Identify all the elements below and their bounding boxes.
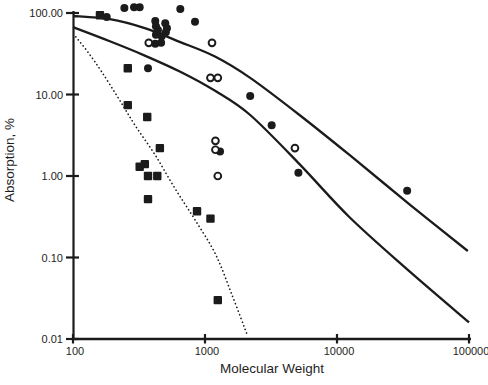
data-point-open-circle [207, 74, 214, 81]
data-point-filled-square [96, 11, 104, 19]
data-point-filled-circle [144, 64, 152, 72]
y-tick-label: 0.01 [42, 333, 63, 345]
data-point-filled-square [144, 195, 152, 203]
y-tick-label: 1.00 [42, 170, 63, 182]
x-tick-label: 10000 [324, 345, 355, 357]
y-tick-label: 10.00 [35, 89, 63, 101]
data-point-filled-square [156, 144, 164, 152]
data-point-filled-circle [176, 5, 184, 13]
data-point-filled-circle [403, 187, 411, 195]
data-point-filled-square [214, 296, 222, 304]
data-point-filled-circle [246, 92, 254, 100]
x-tick-label: 100000 [453, 345, 488, 357]
data-point-filled-square [206, 214, 214, 222]
data-point-open-circle [292, 145, 299, 152]
x-axis-title: Molecular Weight [220, 361, 324, 376]
dotted-curve [76, 37, 248, 336]
labels-layer: 100.0010.001.000.100.0110010001000010000… [29, 7, 488, 357]
data-point-filled-square [193, 207, 201, 215]
data-point-filled-square [141, 160, 149, 168]
data-point-filled-square [143, 113, 151, 121]
y-axis-title: Absorption, % [2, 118, 17, 202]
x-tick-label: 100 [66, 345, 84, 357]
data-point-filled-circle [191, 18, 199, 26]
data-point-filled-circle [157, 39, 165, 47]
chart-figure: 100.0010.001.000.100.0110010001000010000… [0, 0, 488, 385]
axes-layer [66, 11, 471, 344]
data-point-open-circle [145, 39, 152, 46]
data-point-open-circle [214, 74, 221, 81]
data-point-open-circle [214, 173, 221, 180]
data-point-open-circle [212, 137, 219, 144]
data-point-filled-circle [294, 169, 302, 177]
y-tick-label: 100.00 [29, 7, 63, 19]
data-point-filled-square [144, 172, 152, 180]
lower-solid-curve [73, 27, 469, 322]
data-point-open-circle [209, 39, 216, 46]
data-point-filled-circle [268, 121, 276, 129]
data-point-filled-circle [120, 4, 128, 12]
markers-layer [96, 3, 411, 304]
x-tick-label: 1000 [195, 345, 219, 357]
data-point-filled-square [124, 64, 132, 72]
curves-layer [73, 16, 469, 336]
data-point-filled-circle [136, 3, 144, 11]
data-point-filled-square [153, 172, 161, 180]
data-point-filled-square [124, 101, 132, 109]
data-point-open-circle [212, 146, 219, 153]
y-tick-label: 0.10 [42, 252, 63, 264]
absorption-vs-molecular-weight-chart: 100.0010.001.000.100.0110010001000010000… [0, 0, 488, 385]
